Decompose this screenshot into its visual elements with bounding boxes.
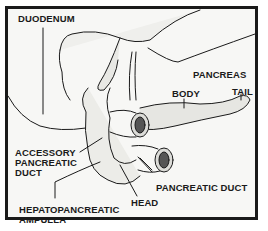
label-ampulla-line2: AMPULLA — [19, 215, 119, 225]
label-pancreas: PANCREAS — [193, 70, 246, 80]
label-accessory-pancreatic-duct: ACCESSORY PANCREATIC DUCT — [15, 148, 77, 178]
label-head: HEAD — [131, 198, 158, 208]
label-accessory-line3: DUCT — [15, 168, 77, 178]
label-hepatopancreatic-ampulla: HEPATOPANCREATIC AMPULLA — [19, 205, 119, 225]
label-tail: TAIL — [232, 87, 253, 97]
label-body: BODY — [172, 89, 200, 99]
label-duodenum: DUODENUM — [18, 14, 75, 24]
label-pancreatic-duct: PANCREATIC DUCT — [156, 183, 247, 193]
